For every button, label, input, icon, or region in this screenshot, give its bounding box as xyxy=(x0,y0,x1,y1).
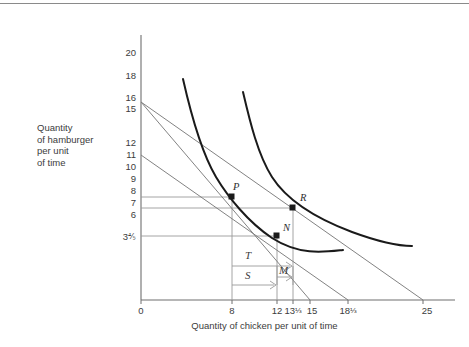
y-axis-title-line-2: of hamburger xyxy=(37,134,94,146)
marker-P xyxy=(229,194,235,200)
y-axis-title-line-1: Quantity xyxy=(37,122,94,134)
chart-canvas: P R N T S M 20 18 16 xyxy=(0,0,469,347)
x-tick-13-whole: 13 xyxy=(284,305,295,316)
x-tick-25: 25 xyxy=(422,305,433,316)
point-label-P: P xyxy=(232,181,240,192)
axis-lines xyxy=(141,35,455,300)
y-tick-6: 6 xyxy=(131,209,136,220)
indifference-curves xyxy=(183,79,412,252)
y-tick-9: 9 xyxy=(131,173,136,184)
x-tick-13-fraction: ⅓ xyxy=(295,306,302,315)
segment-label-M: M xyxy=(278,264,289,276)
x-tick-18-whole: 18 xyxy=(339,305,350,316)
segment-label-T: T xyxy=(245,249,252,261)
x-tick-13-third: 13⅓ xyxy=(284,305,302,316)
y-axis-title-line-4: of time xyxy=(37,157,94,169)
y-tick-18: 18 xyxy=(125,70,136,81)
y-tick-11: 11 xyxy=(126,149,136,160)
point-labels: P R N xyxy=(232,181,307,233)
marker-R xyxy=(290,205,296,211)
indifference-curve-figure: Quantity of hamburger per unit of time xyxy=(0,0,469,347)
y-tick-16: 16 xyxy=(125,92,136,103)
segment-label-S: S xyxy=(245,269,251,281)
y-tick-10: 10 xyxy=(125,161,136,172)
x-axis-title: Quantity of chicken per unit of time xyxy=(0,320,469,331)
x-tick-marks xyxy=(141,300,423,304)
x-tick-12: 12 xyxy=(272,305,283,316)
y-tick-15: 15 xyxy=(125,103,136,114)
point-label-N: N xyxy=(282,222,291,233)
page-top-rule xyxy=(0,3,469,4)
y-tick-3-4-5: 3⅘ xyxy=(123,231,136,242)
x-tick-0: 0 xyxy=(138,305,143,316)
x-tick-18-fraction: ⅓ xyxy=(350,306,357,315)
x-tick-18-third: 18⅓ xyxy=(339,305,357,316)
x-tick-labels: 0 8 12 13⅓ 15 18⅓ 25 xyxy=(138,305,432,316)
x-tick-15: 15 xyxy=(307,305,318,316)
y-tick-12: 12 xyxy=(125,137,136,148)
y-axis-title-line-3: per unit xyxy=(37,145,94,157)
indifference-curve-2 xyxy=(243,92,412,246)
x-axis-title-text: Quantity of chicken per unit of time xyxy=(131,320,337,331)
y-tick-labels: 20 18 16 15 12 11 10 9 8 7 6 3⅘ xyxy=(123,47,136,242)
x-tick-8: 8 xyxy=(229,305,234,316)
y-tick-3-4-5-fraction: ⅘ xyxy=(128,232,136,241)
y-axis-title: Quantity of hamburger per unit of time xyxy=(37,122,94,168)
y-tick-8: 8 xyxy=(131,185,136,196)
point-label-R: R xyxy=(299,192,307,203)
y-tick-7: 7 xyxy=(131,197,136,208)
marker-N xyxy=(274,233,280,239)
indifference-curve-1 xyxy=(183,79,343,252)
y-tick-20: 20 xyxy=(125,47,136,58)
